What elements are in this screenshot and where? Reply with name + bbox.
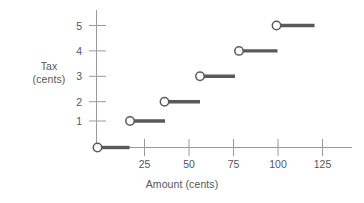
step-marker-tax-3 — [196, 72, 204, 80]
x-tick-label-50: 50 — [174, 158, 204, 170]
step-segments — [98, 26, 315, 148]
x-tick-label-75: 75 — [219, 158, 249, 170]
step-marker-tax-0 — [93, 143, 101, 151]
y-axis-ticks — [89, 26, 106, 122]
step-markers — [93, 21, 280, 151]
x-axis-title: Amount (cents) — [0, 178, 364, 191]
step-function-chart: 5 4 3 2 1 25 50 75 100 125 Tax (cents) A… — [0, 0, 364, 203]
x-tick-label-25: 25 — [130, 158, 160, 170]
y-axis-title-line-2: (cents) — [18, 73, 80, 86]
step-marker-tax-2 — [160, 98, 168, 106]
x-tick-label-100: 100 — [263, 158, 293, 170]
y-tick-label-5: 5 — [66, 20, 82, 32]
y-tick-label-4: 4 — [66, 45, 82, 57]
y-axis-title: Tax (cents) — [18, 60, 80, 86]
x-tick-label-125: 125 — [308, 158, 338, 170]
y-axis-title-line-1: Tax — [18, 60, 80, 73]
chart-plot-area — [0, 0, 364, 203]
step-marker-tax-4 — [235, 47, 243, 55]
step-marker-tax-5 — [272, 21, 280, 29]
y-tick-label-2: 2 — [66, 96, 82, 108]
step-marker-tax-1 — [126, 117, 134, 125]
y-tick-label-1: 1 — [66, 115, 82, 127]
